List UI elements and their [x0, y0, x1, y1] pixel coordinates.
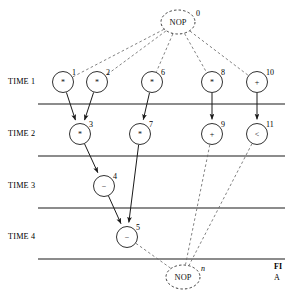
- node-operation-label: *: [78, 130, 82, 139]
- dependency-edges-dashed: [73, 29, 252, 268]
- edge-9-to-n: [186, 145, 210, 265]
- node-operation-label: *: [150, 78, 154, 87]
- node-operation-label: *: [138, 130, 142, 139]
- figure-caption-line2: A: [274, 273, 280, 282]
- op-node-4[interactable]: −4: [94, 172, 118, 197]
- edge-0-to-1: [73, 29, 164, 76]
- edge-11-to-n: [189, 144, 252, 265]
- node-id-label: n: [201, 264, 205, 273]
- node-operation-label: NOP: [170, 18, 187, 27]
- node-operation-label: *: [210, 78, 214, 87]
- op-node-7[interactable]: *7: [130, 120, 154, 145]
- node-id-label: 0: [196, 9, 200, 18]
- op-node-2[interactable]: *2: [87, 68, 111, 93]
- edge-6-to-7: [143, 93, 149, 120]
- node-operation-label: *: [61, 78, 65, 87]
- nop-node-0[interactable]: NOP0: [161, 9, 200, 34]
- op-node-11[interactable]: <11: [247, 120, 274, 145]
- op-node-8[interactable]: *8: [202, 68, 226, 93]
- edge-2-to-3: [85, 92, 94, 120]
- edge-0-to-10: [190, 31, 248, 75]
- edge-3-to-4: [85, 144, 98, 173]
- op-node-3[interactable]: *3: [70, 120, 94, 145]
- edge-0-to-2: [106, 31, 166, 75]
- node-id-label: 4: [113, 172, 117, 181]
- node-operation-label: *: [95, 78, 99, 87]
- time-step-label-3: TIME 3: [8, 181, 35, 190]
- op-node-6[interactable]: *6: [142, 68, 166, 93]
- edge-1-to-3: [66, 92, 75, 120]
- node-operation-label: NOP: [175, 273, 192, 282]
- node-id-label: 8: [221, 68, 225, 77]
- edge-0-to-8: [185, 34, 207, 73]
- op-node-1[interactable]: *1: [53, 68, 77, 93]
- op-node-10[interactable]: +10: [247, 68, 275, 93]
- edge-0-to-6: [156, 34, 172, 72]
- dependency-graph: NOP0*1*2*6*8+10*3*7+9<11−4−5NOPn: [0, 0, 307, 291]
- time-step-label-4: TIME 4: [8, 232, 35, 241]
- node-operation-label: +: [210, 130, 215, 139]
- node-id-label: 7: [149, 120, 153, 129]
- node-operation-label: −: [125, 233, 130, 242]
- figure-canvas: NOP0*1*2*6*8+10*3*7+9<11−4−5NOPn TIME 1T…: [0, 0, 307, 291]
- node-id-label: 5: [136, 223, 140, 232]
- time-step-label-1: TIME 1: [8, 77, 35, 86]
- op-node-9[interactable]: +9: [202, 120, 226, 145]
- node-operation-label: −: [102, 182, 107, 191]
- edge-4-to-5: [109, 196, 121, 224]
- figure-caption-line1: FI: [274, 262, 282, 271]
- node-id-label: 9: [221, 120, 225, 129]
- operation-nodes: NOP0*1*2*6*8+10*3*7+9<11−4−5NOPn: [53, 9, 275, 289]
- node-id-label: 2: [106, 68, 110, 77]
- nop-node-n[interactable]: NOPn: [166, 264, 205, 289]
- node-id-label: 10: [266, 68, 274, 77]
- node-id-label: 1: [72, 68, 76, 77]
- dependency-edges-solid: [66, 92, 257, 223]
- edge-5-to-n: [136, 243, 170, 268]
- node-operation-label: +: [255, 78, 260, 87]
- node-id-label: 3: [89, 120, 93, 129]
- node-operation-label: <: [255, 130, 260, 139]
- node-id-label: 11: [266, 120, 274, 129]
- node-id-label: 6: [161, 68, 165, 77]
- time-step-label-2: TIME 2: [8, 129, 35, 138]
